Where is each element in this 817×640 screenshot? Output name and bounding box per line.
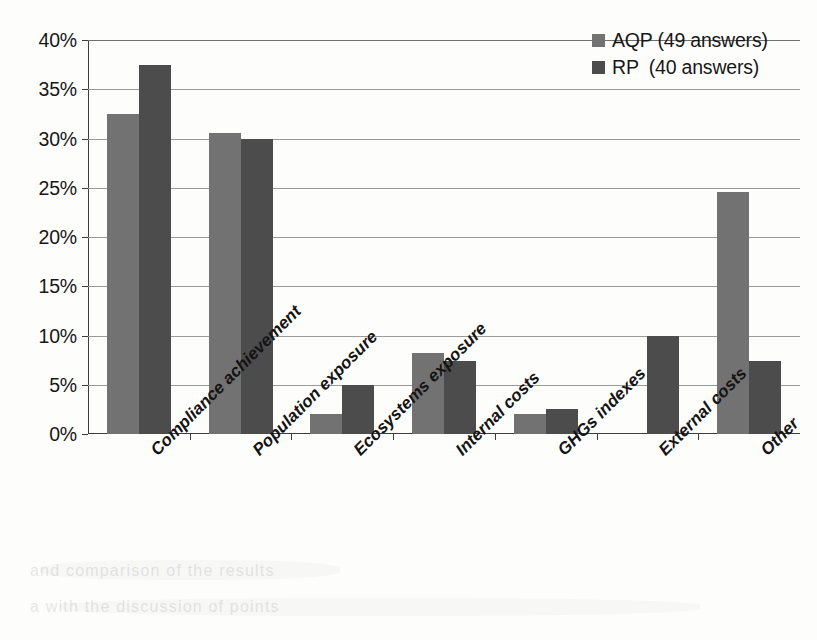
y-axis-label-40pct: 40% (39, 29, 77, 52)
legend-item-aqp: AQP (49 answers) (592, 28, 768, 53)
y-axis-label-25pct: 25% (39, 176, 77, 199)
y-tick-mark (82, 139, 88, 140)
bar-rp-population-exposure (241, 139, 273, 435)
gridline-25pct (88, 188, 800, 189)
scan-bleed-text-1: and comparison of the results (30, 562, 275, 580)
x-category-label-ecosystems-exposure: Ecosystems exposure (350, 446, 364, 460)
y-tick-mark (82, 237, 88, 238)
y-axis-label-0pct: 0% (49, 423, 77, 446)
x-category-label-external-costs: External costs (655, 446, 669, 460)
x-category-label-other: Other (757, 446, 771, 460)
x-category-label-ghgs-indexes: GHGs indexes (554, 446, 568, 460)
x-axis-category-labels: Compliance achievementPopulation exposur… (88, 434, 800, 564)
y-tick-mark (82, 89, 88, 90)
scan-smudge-2 (60, 598, 700, 616)
scan-bleed-text-2: a with the discussion of points (30, 598, 280, 616)
bar-aqp-ghgs-indexes (514, 414, 546, 434)
bar-rp-external-costs (647, 336, 679, 435)
gridline-35pct (88, 89, 800, 90)
gridline-10pct (88, 336, 800, 337)
legend-label-aqp: AQP (49 answers) (612, 29, 768, 52)
y-tick-mark (82, 40, 88, 41)
x-category-label-internal-costs: Internal costs (452, 446, 466, 460)
bar-aqp-compliance-achievement (107, 114, 139, 434)
y-axis-label-10pct: 10% (39, 324, 77, 347)
x-category-label-compliance-achievement: Compliance achievement (147, 446, 161, 460)
y-axis-label-30pct: 30% (39, 127, 77, 150)
legend-label-rp: RP (40 answers) (612, 56, 759, 79)
y-tick-mark (82, 286, 88, 287)
bar-chart-figure: and comparison of the results a with the… (0, 0, 817, 640)
y-axis-label-20pct: 20% (39, 226, 77, 249)
bar-aqp-ecosystems-exposure (310, 414, 342, 434)
chart-legend: AQP (49 answers)RP (40 answers) (592, 28, 768, 80)
x-category-label-population-exposure: Population exposure (249, 446, 263, 460)
y-axis-label-15pct: 15% (39, 275, 77, 298)
gridline-30pct (88, 139, 800, 140)
y-tick-mark (82, 188, 88, 189)
y-tick-mark (82, 336, 88, 337)
y-axis-label-5pct: 5% (49, 373, 77, 396)
legend-swatch-icon-aqp (592, 34, 605, 47)
legend-item-rp: RP (40 answers) (592, 55, 768, 80)
y-tick-mark (82, 385, 88, 386)
bar-rp-compliance-achievement (139, 65, 171, 434)
gridline-15pct (88, 286, 800, 287)
gridline-20pct (88, 237, 800, 238)
legend-swatch-icon-rp (592, 61, 605, 74)
bar-rp-other (749, 361, 781, 434)
y-axis-label-35pct: 35% (39, 78, 77, 101)
